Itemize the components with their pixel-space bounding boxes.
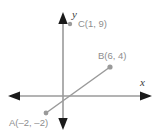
point-marker-b bbox=[107, 64, 112, 69]
y-axis-label: y bbox=[71, 8, 77, 20]
point-marker-a bbox=[44, 111, 49, 116]
segment-ab bbox=[46, 67, 110, 113]
y-axis-up-arrowhead-icon bbox=[58, 12, 67, 24]
point-label-a: A(–2, –2) bbox=[9, 117, 48, 128]
coordinate-plane-svg: x y C(1, 9) B(6, 4) A(–2, –2) bbox=[0, 0, 162, 137]
y-axis-down-arrowhead-icon bbox=[58, 118, 67, 130]
x-axis-right-arrowhead-icon bbox=[140, 92, 152, 101]
x-axis-label: x bbox=[139, 76, 145, 88]
point-label-c: C(1, 9) bbox=[78, 18, 107, 29]
coordinate-plane-figure: x y C(1, 9) B(6, 4) A(–2, –2) bbox=[0, 0, 162, 137]
point-marker-c bbox=[68, 22, 72, 26]
x-axis-left-arrowhead-icon bbox=[8, 92, 20, 101]
point-label-b: B(6, 4) bbox=[98, 50, 127, 61]
